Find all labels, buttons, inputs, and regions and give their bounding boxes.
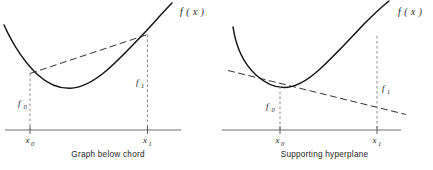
label-x0-left-sub: 0 <box>31 140 35 147</box>
label-f1-left-main: f <box>136 77 140 87</box>
label-x1-left: x 1 <box>142 135 152 147</box>
label-x1-right-main: x <box>372 135 377 145</box>
figure-canvas: f ( x ) f 0 f 1 x 0 x 1 <box>0 0 433 170</box>
function-label-left: f ( x ) <box>180 7 205 18</box>
label-x0-left-main: x <box>25 135 30 145</box>
caption-graph-below-chord: Graph below chord <box>0 150 216 159</box>
label-f1-right: f 1 <box>382 83 390 95</box>
label-x0-right-sub: 0 <box>281 140 285 147</box>
label-f0-right-sub: 0 <box>272 106 276 113</box>
label-f0-left: f 0 <box>18 98 28 110</box>
label-f0-right-main: f <box>266 101 270 111</box>
label-f1-right-main: f <box>382 83 386 93</box>
label-x1-left-main: x <box>142 135 147 145</box>
caption-supporting-hyperplane: Supporting hyperplane <box>216 150 433 159</box>
label-f0-right: f 0 <box>266 101 276 113</box>
function-curve-left <box>4 3 172 88</box>
label-f0-left-sub: 0 <box>24 103 28 110</box>
supporting-hyperplane-line <box>228 71 406 115</box>
label-x1-right-sub: 1 <box>378 140 381 147</box>
panel-supporting-hyperplane: f ( x ) f 0 f 1 x 0 x 1 <box>222 1 423 147</box>
label-f1-left: f 1 <box>136 77 144 89</box>
label-f1-right-sub: 1 <box>387 88 390 95</box>
label-x1-right: x 1 <box>372 135 382 147</box>
function-label-right: f ( x ) <box>398 7 423 18</box>
label-x0-right-main: x <box>275 135 280 145</box>
convexity-figure: f ( x ) f 0 f 1 x 0 x 1 <box>0 0 433 170</box>
label-x0-left: x 0 <box>25 135 36 147</box>
panel-graph-below-chord: f ( x ) f 0 f 1 x 0 x 1 <box>4 3 205 147</box>
label-x0-right: x 0 <box>275 135 286 147</box>
function-curve-right <box>233 1 389 88</box>
chord-line <box>30 35 148 74</box>
label-f1-left-sub: 1 <box>141 82 144 89</box>
label-x1-left-sub: 1 <box>149 140 152 147</box>
label-f0-left-main: f <box>18 98 22 108</box>
